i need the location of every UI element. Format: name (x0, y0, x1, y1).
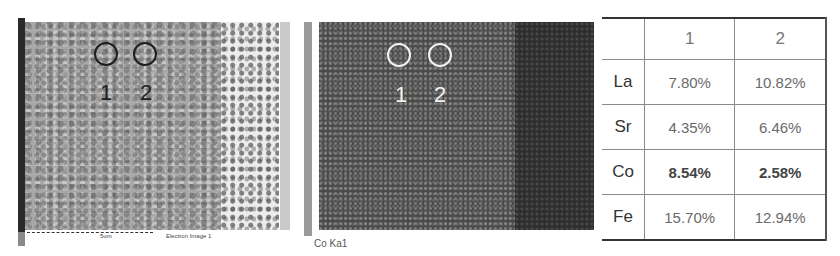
element-cell: Co (602, 150, 645, 195)
point-marker-circle-1 (94, 42, 118, 66)
image-caption: Electron Image 1 (166, 233, 211, 239)
sem-image-region-bright (221, 22, 279, 230)
point-marker-circle-2 (133, 42, 157, 66)
table-row: Co 8.54% 2.58% (602, 150, 826, 195)
table-row: Sr 4.35% 6.46% (602, 105, 826, 150)
composition-table: 1 2 La 7.80% 10.82% Sr 4.35% 6.46% Co 8.… (602, 17, 827, 241)
image-border-left-bottom (18, 232, 25, 246)
image-border-right (280, 22, 290, 230)
value-cell: 8.54% (645, 150, 735, 195)
scale-bar (27, 232, 153, 233)
header-cell-point-2: 2 (735, 18, 826, 60)
eds-map-region-dark (515, 22, 594, 230)
value-cell: 6.46% (735, 105, 826, 150)
scale-bar-label: 5um (100, 233, 112, 239)
value-cell: 7.80% (645, 60, 735, 105)
image-border-left (18, 18, 25, 240)
value-cell: 15.70% (645, 195, 735, 241)
element-cell: Fe (602, 195, 645, 241)
value-cell: 12.94% (735, 195, 826, 241)
point-label-1: 1 (100, 82, 112, 104)
eds-element-map-panel: 1 2 Co Ka1 (304, 18, 596, 240)
table-row: La 7.80% 10.82% (602, 60, 826, 105)
point-label-2: 2 (434, 84, 446, 106)
header-cell-empty (602, 18, 645, 60)
point-label-1: 1 (395, 84, 407, 106)
table-header-row: 1 2 (602, 18, 826, 60)
point-label-2: 2 (140, 82, 152, 104)
value-cell: 2.58% (735, 150, 826, 195)
element-cell: Sr (602, 105, 645, 150)
value-cell: 4.35% (645, 105, 735, 150)
header-cell-point-1: 1 (645, 18, 735, 60)
element-cell: La (602, 60, 645, 105)
point-marker-circle-2 (428, 43, 452, 67)
eds-map-region (319, 22, 515, 230)
sem-image-region-textured (25, 22, 221, 230)
point-marker-circle-1 (387, 43, 411, 67)
map-border-left (304, 22, 312, 236)
table-row: Fe 15.70% 12.94% (602, 195, 826, 241)
value-cell: 10.82% (735, 60, 826, 105)
map-caption: Co Ka1 (314, 238, 347, 249)
sem-electron-image-panel: 1 2 5um Electron Image 1 (18, 18, 294, 240)
